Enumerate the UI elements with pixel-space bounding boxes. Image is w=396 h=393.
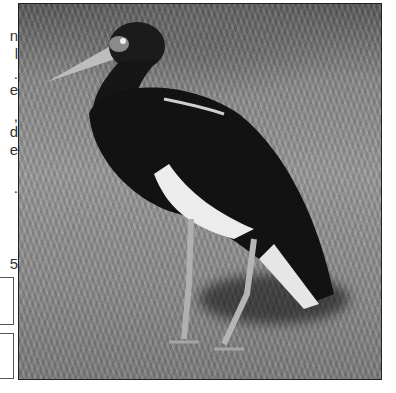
edge-fragment: . xyxy=(0,66,18,81)
edge-fragment: e xyxy=(0,82,18,97)
edge-fragment: l xyxy=(0,46,18,61)
edge-box xyxy=(0,277,14,325)
edge-fragment: . xyxy=(0,180,18,195)
edge-fragment: n xyxy=(0,28,18,43)
edge-fragment: e xyxy=(0,142,18,157)
edge-box xyxy=(0,333,14,379)
edge-fragment: , xyxy=(0,108,18,123)
edge-fragment: 5 xyxy=(0,256,18,271)
edge-fragment: d xyxy=(0,124,18,139)
stork-figure xyxy=(19,4,381,379)
stork-photo xyxy=(18,3,382,380)
